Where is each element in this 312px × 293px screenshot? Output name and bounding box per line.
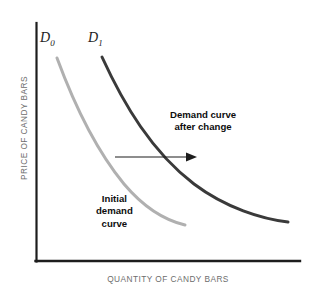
curve-label-d0-subscript: 0	[50, 38, 55, 48]
curve-label-d0-letter: D	[40, 30, 50, 45]
annotation-after-change-line2: after change	[170, 121, 236, 133]
annotation-after-change-line1: Demand curve	[170, 109, 236, 121]
y-axis-title: PRICE OF CANDY BARS	[19, 28, 29, 228]
annotation-initial-demand: Initial demand curve	[96, 193, 133, 230]
annotation-after-change: Demand curve after change	[170, 109, 236, 134]
shift-arrow	[115, 153, 197, 162]
annotation-initial-line3: curve	[96, 218, 133, 230]
annotation-initial-line1: Initial	[96, 193, 133, 205]
curve-label-d1-letter: D	[88, 30, 98, 45]
annotation-initial-line2: demand	[96, 205, 133, 217]
x-axis-title: QUANTITY OF CANDY BARS	[36, 274, 300, 284]
demand-curve-figure: D0 D1 Demand curve after change Initial …	[0, 0, 312, 293]
curve-label-d1-subscript: 1	[98, 38, 103, 48]
curve-label-d1: D1	[88, 30, 103, 48]
curve-label-d0: D0	[40, 30, 55, 48]
